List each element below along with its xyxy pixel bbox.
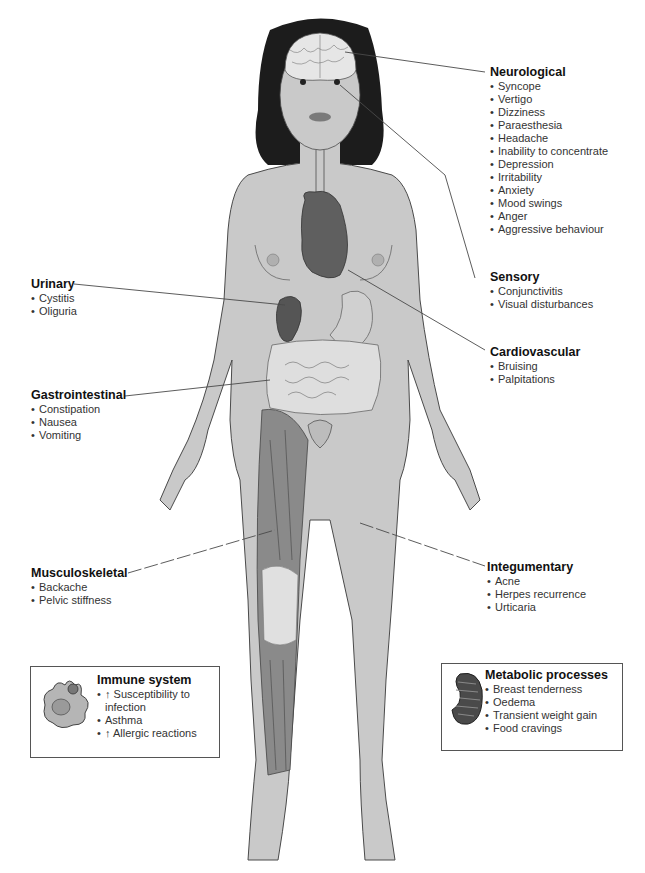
sensory-label: Sensory Conjunctivitis Visual disturbanc…: [490, 270, 593, 311]
cardiovascular-label: Cardiovascular Bruising Palpitations: [490, 345, 580, 386]
list-item: ↑ Susceptibility to infection: [97, 688, 219, 714]
urinary-title: Urinary: [31, 277, 77, 292]
cardiovascular-title: Cardiovascular: [490, 345, 580, 360]
urinary-list: Cystitis Oliguria: [31, 292, 77, 318]
list-item: Urticaria: [487, 601, 586, 614]
list-item: Oliguria: [31, 305, 77, 318]
list-item: Constipation: [31, 403, 126, 416]
integumentary-label: Integumentary Acne Herpes recurrence Urt…: [487, 560, 586, 614]
list-item: Syncope: [490, 80, 608, 93]
metabolic-processes-box: Metabolic processes Breast tenderness Oe…: [441, 663, 623, 751]
gastrointestinal-label: Gastrointestinal Constipation Nausea Vom…: [31, 388, 126, 442]
knee: [262, 566, 298, 645]
musculoskeletal-title: Musculoskeletal: [31, 566, 128, 581]
integumentary-title: Integumentary: [487, 560, 586, 575]
list-item: Headache: [490, 132, 608, 145]
list-item: Anger: [490, 210, 608, 223]
gastrointestinal-title: Gastrointestinal: [31, 388, 126, 403]
list-item: Paraesthesia: [490, 119, 608, 132]
list-item: Irritability: [490, 171, 608, 184]
list-item: Transient weight gain: [485, 709, 608, 722]
list-item: Anxiety: [490, 184, 608, 197]
list-item: Aggressive behaviour: [490, 223, 608, 236]
list-item: Mood swings: [490, 197, 608, 210]
list-item: Backache: [31, 581, 128, 594]
list-item: Breast tenderness: [485, 683, 608, 696]
list-item: Nausea: [31, 416, 126, 429]
neurological-label: Neurological Syncope Vertigo Dizziness P…: [490, 65, 608, 236]
integumentary-list: Acne Herpes recurrence Urticaria: [487, 575, 586, 614]
list-item: Inability to concentrate: [490, 145, 608, 158]
sensory-list: Conjunctivitis Visual disturbances: [490, 285, 593, 311]
metabolic-label: Metabolic processes Breast tenderness Oe…: [485, 668, 608, 735]
list-item: Visual disturbances: [490, 298, 593, 311]
eye-left: [300, 79, 306, 85]
list-item: Vertigo: [490, 93, 608, 106]
list-item: Food cravings: [485, 722, 608, 735]
list-item: Dizziness: [490, 106, 608, 119]
metabolic-title: Metabolic processes: [485, 668, 608, 683]
list-item: Herpes recurrence: [487, 588, 586, 601]
list-item: Conjunctivitis: [490, 285, 593, 298]
list-item: Bruising: [490, 360, 580, 373]
list-item: Depression: [490, 158, 608, 171]
list-item: Vomiting: [31, 429, 126, 442]
mitochondrion-icon: [448, 670, 486, 728]
sensory-title: Sensory: [490, 270, 593, 285]
metabolic-list: Breast tenderness Oedema Transient weigh…: [485, 683, 608, 735]
immune-list: ↑ Susceptibility to infection Asthma ↑ A…: [97, 688, 219, 740]
musculoskeletal-list: Backache Pelvic stiffness: [31, 581, 128, 607]
immune-title: Immune system: [97, 673, 219, 688]
list-item: Acne: [487, 575, 586, 588]
musculoskeletal-label: Musculoskeletal Backache Pelvic stiffnes…: [31, 566, 128, 607]
intestines: [266, 340, 380, 415]
list-item: Oedema: [485, 696, 608, 709]
list-item: ↑ Allergic reactions: [97, 727, 219, 740]
neurological-title: Neurological: [490, 65, 608, 80]
immune-label: Immune system ↑ Susceptibility to infect…: [97, 673, 219, 740]
lips: [309, 113, 331, 122]
eye-right: [334, 79, 340, 85]
list-item: Palpitations: [490, 373, 580, 386]
list-item: Pelvic stiffness: [31, 594, 128, 607]
urinary-label: Urinary Cystitis Oliguria: [31, 277, 77, 318]
immune-cell-icon: [39, 675, 97, 731]
list-item: Cystitis: [31, 292, 77, 305]
gastrointestinal-list: Constipation Nausea Vomiting: [31, 403, 126, 442]
immune-system-box: Immune system ↑ Susceptibility to infect…: [30, 666, 220, 758]
neurological-list: Syncope Vertigo Dizziness Paraesthesia H…: [490, 80, 608, 236]
list-item: Asthma: [97, 714, 219, 727]
cardiovascular-list: Bruising Palpitations: [490, 360, 580, 386]
